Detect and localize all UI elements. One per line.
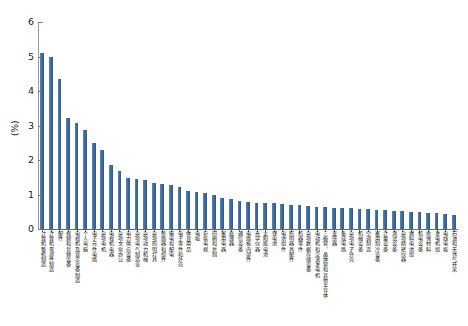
- x-category-label: 空调制造: [365, 231, 370, 252]
- x-category-label: 个人电脑: [83, 231, 88, 252]
- x-category-label: 杂项电子外壳: [348, 231, 353, 262]
- x-category-label: 机器零件: [297, 231, 302, 252]
- bar: [135, 179, 139, 229]
- bar: [49, 57, 53, 230]
- bar: [195, 192, 199, 229]
- y-tick-label: 3: [28, 121, 34, 131]
- y-tick-label: 6: [28, 17, 34, 27]
- x-category-label: 电子元件电路: [91, 231, 96, 262]
- bar: [392, 211, 396, 229]
- x-category-label: 印刷和复制: [211, 231, 216, 257]
- x-axis-category-labels: 计算机整机制造计算机零部件制造配件视频和音频设备电视机及显示设备制造个人电脑电子…: [38, 231, 458, 326]
- y-axis-title: (%): [2, 98, 28, 158]
- bar: [280, 204, 284, 229]
- x-category-label: 视频和音频设备: [65, 231, 70, 267]
- x-category-label: 变压器: [331, 231, 336, 247]
- x-category-label: 家用制冷设备: [374, 231, 379, 262]
- bar: [160, 184, 164, 229]
- x-category-label: 杂项电气制造业: [134, 231, 139, 267]
- x-category-label: 电池组件: [280, 231, 285, 252]
- bar: [358, 209, 362, 229]
- bar: [169, 185, 173, 229]
- bar: [75, 123, 79, 229]
- bar: [383, 210, 387, 229]
- bar: [400, 211, 404, 229]
- x-category-label: 石油和天然气开采: [451, 231, 456, 273]
- x-category-label: 配件: [57, 231, 62, 241]
- bar: [100, 150, 104, 229]
- x-category-label: 杂项照明灯具: [151, 231, 156, 262]
- x-category-label: 太阳能电池: [263, 231, 268, 257]
- x-category-label: 杂项数据存储设备: [305, 231, 310, 273]
- bar: [83, 130, 87, 229]
- bar: [426, 213, 430, 229]
- x-category-label: 彩色电视: [203, 231, 208, 252]
- y-tick-label: 4: [28, 86, 34, 96]
- x-category-label: 光学仪器: [254, 231, 259, 252]
- x-category-label: 电缆: [194, 231, 199, 241]
- bar: [306, 206, 310, 229]
- bar: [349, 208, 353, 229]
- bar: [40, 53, 44, 229]
- bar: [92, 143, 96, 229]
- y-tick-label: 0: [28, 224, 34, 234]
- bar: [375, 210, 379, 229]
- bar: [340, 208, 344, 229]
- x-category-label: 输电和配电: [168, 231, 173, 257]
- bar: [255, 203, 259, 229]
- bar: [186, 191, 190, 229]
- x-category-label: 电动机和交流发电机: [314, 231, 319, 278]
- x-category-label: 杂项电机: [100, 231, 105, 252]
- x-category-label: 计量设备: [383, 231, 388, 252]
- y-tick-label: 5: [28, 52, 34, 62]
- bar-chart-figure: (%) 0123456 计算机整机制造计算机零部件制造配件视频和音频设备电视机及…: [0, 0, 468, 326]
- bar: [323, 207, 327, 229]
- bar: [272, 203, 276, 229]
- x-category-label: 电子零件和外壳: [177, 231, 182, 267]
- x-category-label: 机械设备: [357, 231, 362, 252]
- x-category-label: 杂项文化办公: [117, 231, 122, 262]
- bar: [203, 193, 207, 229]
- bar: [143, 180, 147, 229]
- bar: [443, 214, 447, 229]
- bar: [289, 205, 293, 229]
- x-category-label: 三极管、晶体管和其他半导体: [323, 231, 328, 299]
- bar: [220, 198, 224, 229]
- x-category-label: 集成电路: [340, 231, 345, 252]
- bar: [418, 212, 422, 229]
- x-category-label: 杂项动力机械: [143, 231, 148, 262]
- bar: [152, 183, 156, 229]
- bar: [238, 201, 242, 229]
- bar: [332, 208, 336, 229]
- bar: [109, 165, 113, 230]
- x-category-label: 杂项精密仪器: [400, 231, 405, 262]
- x-category-label: 计算机零部件制造: [48, 231, 53, 273]
- bar: [126, 178, 130, 229]
- bar: [435, 213, 439, 229]
- x-category-label: 燃料电池组: [408, 231, 413, 257]
- x-category-label: 电路板内部件: [245, 231, 250, 262]
- bar: [315, 207, 319, 229]
- bar: [66, 118, 70, 229]
- x-category-label: 测试设备: [391, 231, 396, 252]
- bar: [118, 171, 122, 229]
- y-tick-mark: [38, 22, 42, 23]
- x-category-label: 断路器和组件: [160, 231, 165, 262]
- bar: [409, 212, 413, 229]
- x-category-label: 体育用品: [185, 231, 190, 252]
- x-category-label: 电视机电器: [108, 231, 113, 257]
- x-category-label: 照明器具配件: [288, 231, 293, 262]
- bar: [263, 203, 267, 229]
- plot-area: 0123456: [38, 22, 458, 229]
- y-tick-label: 2: [28, 155, 34, 165]
- x-category-label: 处理器: [228, 231, 233, 247]
- bar: [366, 209, 370, 229]
- x-category-label: 电力供应设备: [125, 231, 130, 262]
- bar: [246, 202, 250, 229]
- x-category-label: 电视机及显示设备制造: [74, 231, 79, 283]
- x-category-label: 发电机组: [434, 231, 439, 252]
- bar: [212, 195, 216, 230]
- x-category-label: 计算机整机制造: [40, 231, 45, 267]
- bar: [229, 199, 233, 229]
- bar: [58, 79, 62, 229]
